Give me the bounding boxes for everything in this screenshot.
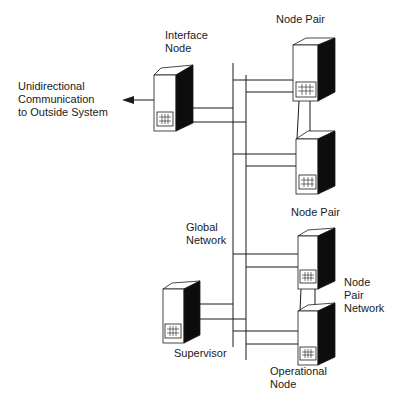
node-pair-1a-server-icon	[293, 38, 335, 101]
np1-pair-link-1	[297, 101, 299, 139]
node-pair-1b-server-icon	[296, 131, 335, 194]
interface-node-server-icon	[154, 65, 193, 131]
np2-pair-link-1	[300, 289, 301, 311]
node-pair-bottom-label: Node Pair	[291, 206, 340, 219]
operational-node-label: Operational Node	[270, 365, 327, 391]
supervisor-server-icon	[163, 281, 200, 343]
supervisor-label: Supervisor	[174, 347, 227, 360]
arrow-left-icon	[122, 96, 134, 104]
global-network-label: Global Network	[186, 221, 226, 247]
operational-node-server-icon	[298, 303, 335, 365]
node-pair-top-label: Node Pair	[276, 13, 325, 26]
node-pair-2a-server-icon	[298, 228, 335, 289]
interface-node-label: Interface Node	[165, 29, 208, 55]
outside-system-label: Unidirectional Communication to Outside …	[18, 80, 108, 119]
node-pair-network-label: Node Pair Network	[344, 276, 384, 315]
